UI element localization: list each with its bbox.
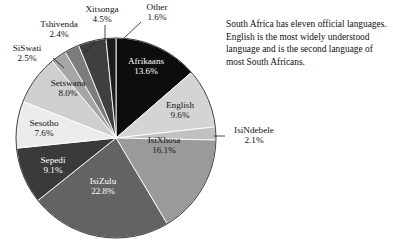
pie-label-siswati-value: 2.5% (1, 54, 53, 64)
pie-label-english-name: English (155, 100, 205, 110)
pie-label-setswana: Setswana 8.0% (39, 79, 97, 99)
pie-label-afrikaans: Afrikaans 13.6% (113, 56, 179, 76)
pie-label-isizulu-value: 22.8% (76, 186, 130, 196)
pie-label-isindebele: IsiNdebele 2.1% (219, 126, 289, 146)
pie-label-english: English 9.6% (155, 100, 205, 120)
pie-label-other-value: 1.6% (131, 13, 183, 23)
pie-label-sesotho-value: 7.6% (16, 129, 72, 139)
pie-label-isizulu-name: IsiZulu (76, 176, 130, 186)
chart-caption: South Africa has eleven official languag… (226, 18, 390, 69)
pie-label-afrikaans-value: 13.6% (113, 66, 179, 76)
pie-label-isindebele-value: 2.1% (219, 136, 289, 146)
pie-label-other: Other 1.6% (131, 3, 183, 23)
pie-label-sepedi: Sepedi 9.1% (29, 155, 77, 175)
pie-label-isixhosa-name: IsiXhosa (136, 135, 192, 145)
pie-label-isixhosa-value: 16.1% (136, 145, 192, 155)
pie-chart-figure: Other 1.6% Xitsonga 4.5% Tshivenda 2.4% … (0, 0, 393, 244)
pie-label-english-value: 9.6% (155, 110, 205, 120)
chart-caption-text: South Africa has eleven official languag… (226, 18, 390, 69)
pie-label-isixhosa: IsiXhosa 16.1% (136, 135, 192, 155)
pie-label-sesotho: Sesotho 7.6% (16, 119, 72, 139)
pie-label-setswana-value: 8.0% (39, 89, 97, 99)
pie-label-afrikaans-name: Afrikaans (113, 56, 179, 66)
pie-label-isizulu: IsiZulu 22.8% (76, 176, 130, 196)
pie-label-tshivenda-value: 2.4% (24, 30, 94, 40)
pie-label-siswati: SiSwati 2.5% (1, 44, 53, 64)
pie-label-tshivenda: Tshivenda 2.4% (24, 20, 94, 40)
pie-label-sepedi-name: Sepedi (29, 155, 77, 165)
pie-label-sepedi-value: 9.1% (29, 165, 77, 175)
